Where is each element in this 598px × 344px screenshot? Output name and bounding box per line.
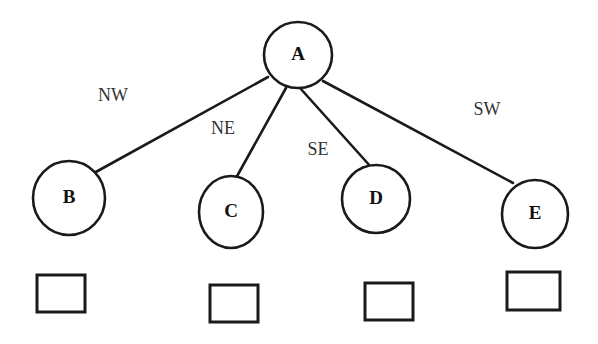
swatch-4-outline xyxy=(507,272,560,310)
edge-label-ne: NE xyxy=(211,118,235,138)
legend-swatch-4 xyxy=(507,272,560,310)
edge-a-c xyxy=(236,88,286,178)
swatch-2-hatch-line xyxy=(258,285,295,322)
swatch-1-outline xyxy=(37,275,85,312)
node-b[interactable]: B xyxy=(33,161,105,235)
swatch-2-hatch-line xyxy=(275,285,312,322)
legend-swatch-3 xyxy=(328,283,484,320)
swatch-3-outline xyxy=(365,283,413,320)
swatch-1-hatch-line xyxy=(119,275,156,312)
swatch-2-hatch-line xyxy=(292,285,329,322)
edge-a-e xyxy=(323,81,513,183)
node-d[interactable]: D xyxy=(342,165,410,233)
edges-layer xyxy=(94,77,513,183)
node-c[interactable]: C xyxy=(199,176,263,248)
tree-diagram: ABCDE NWNESESW xyxy=(0,0,598,344)
node-c-label: C xyxy=(224,200,238,221)
swatch-3-hatch-line xyxy=(328,283,365,320)
edge-label-sw: SW xyxy=(474,99,501,119)
node-b-label: B xyxy=(63,186,76,207)
node-a-label: A xyxy=(291,43,305,64)
legend-swatch-2 xyxy=(173,285,329,322)
swatch-1-hatch-line xyxy=(102,275,139,312)
tree-diagram-canvas: ABCDE NWNESESW xyxy=(0,0,598,344)
node-d-label: D xyxy=(369,187,383,208)
edge-label-nw: NW xyxy=(98,85,128,105)
swatch-3-hatch-line xyxy=(413,283,450,320)
swatch-2-outline xyxy=(210,285,258,322)
legend-swatches-layer xyxy=(0,272,560,322)
edge-label-se: SE xyxy=(307,139,328,159)
nodes-layer: ABCDE xyxy=(33,22,568,248)
node-e[interactable]: E xyxy=(502,180,568,248)
swatch-1-hatch-line xyxy=(85,275,122,312)
node-e-label: E xyxy=(529,202,542,223)
legend-swatch-1 xyxy=(0,275,156,312)
edge-labels-layer: NWNESESW xyxy=(98,85,501,159)
swatch-3-hatch-line xyxy=(447,283,484,320)
swatch-2-hatch-line xyxy=(173,285,210,322)
node-a[interactable]: A xyxy=(264,22,332,88)
swatch-3-hatch-line xyxy=(430,283,467,320)
swatch-1-hatch-line xyxy=(0,275,37,312)
